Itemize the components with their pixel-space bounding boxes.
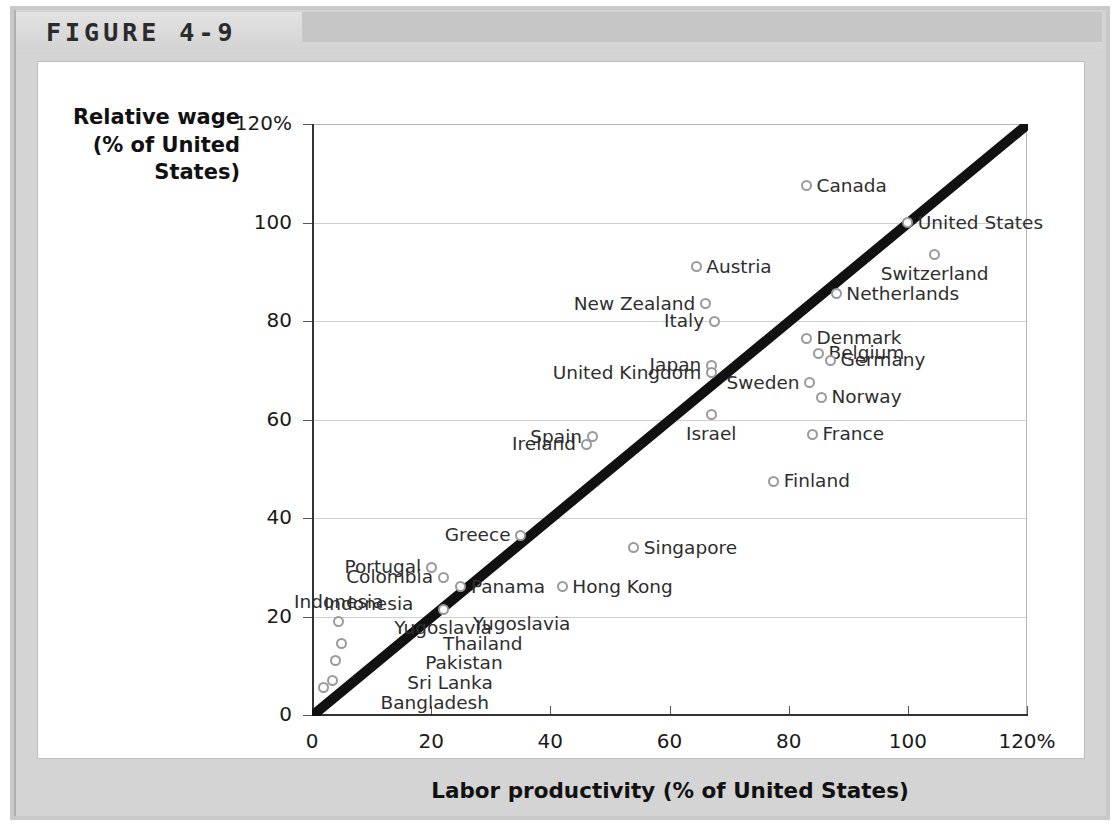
y-tick-label: 120% — [212, 111, 292, 135]
data-point-label: United Kingdom — [553, 363, 702, 382]
data-point[interactable] — [768, 476, 779, 487]
x-tick-label: 80 — [749, 729, 829, 753]
data-point-label: Singapore — [644, 538, 737, 557]
data-point[interactable] — [709, 316, 720, 327]
x-tick-label: 100 — [868, 729, 948, 753]
data-point-label: Germany — [840, 351, 925, 370]
data-point-label: Panama — [471, 578, 545, 597]
data-point-label: France — [823, 425, 885, 444]
data-point-label: Ireland — [512, 435, 576, 454]
data-point-label: Yugoslavia — [473, 615, 571, 634]
data-point[interactable] — [825, 355, 836, 366]
y-tick-label: 20 — [212, 604, 292, 628]
data-point-label: Canada — [817, 176, 887, 195]
data-point-label: Indonesia — [324, 595, 413, 614]
plot-top-border — [312, 124, 1028, 125]
y-tick-label: 60 — [212, 407, 292, 431]
data-point-label: Thailand — [443, 634, 522, 653]
data-point[interactable] — [804, 377, 815, 388]
data-point-label: Greece — [445, 526, 511, 545]
data-point[interactable] — [691, 261, 702, 272]
data-point-label: Sweden — [726, 373, 799, 392]
y-axis-line — [312, 124, 314, 716]
data-point[interactable] — [318, 682, 329, 693]
data-point-label: Sri Lanka — [407, 674, 492, 693]
data-point[interactable] — [902, 217, 913, 228]
data-point[interactable] — [831, 288, 842, 299]
y-tick-mark — [303, 617, 312, 618]
data-point[interactable] — [557, 581, 568, 592]
data-point[interactable] — [330, 655, 341, 666]
data-point-label: Israel — [686, 424, 737, 443]
data-point-label: United States — [918, 213, 1043, 232]
figure-page: FIGURE 4-9 Relative wage (% of United St… — [0, 0, 1118, 830]
y-tick-mark — [303, 124, 312, 125]
data-point[interactable] — [700, 298, 711, 309]
x-tick-label: 40 — [510, 729, 590, 753]
gridline-horizontal — [312, 420, 1027, 421]
data-point[interactable] — [801, 333, 812, 344]
data-point[interactable] — [801, 180, 812, 191]
data-point-label: Norway — [831, 388, 901, 407]
data-point-label: Finland — [784, 472, 850, 491]
y-tick-mark — [303, 715, 312, 716]
y-tick-mark — [303, 420, 312, 421]
data-point[interactable] — [327, 675, 338, 686]
data-point-label: Bangladesh — [381, 693, 489, 712]
data-point-label: Colombia — [346, 568, 433, 587]
data-point[interactable] — [515, 530, 526, 541]
data-point[interactable] — [706, 409, 717, 420]
data-point-label: Pakistan — [425, 654, 502, 673]
scatter-chart: Relative wage (% of United States) Labor… — [0, 0, 1118, 830]
y-tick-label: 100 — [212, 210, 292, 234]
x-tick-label: 120% — [987, 729, 1067, 753]
data-point-label: Austria — [706, 258, 771, 277]
data-point-label: Italy — [664, 312, 704, 331]
data-point[interactable] — [455, 581, 466, 592]
data-point-label: Hong Kong — [572, 578, 673, 597]
data-point[interactable] — [628, 542, 639, 553]
x-tick-label: 0 — [272, 729, 352, 753]
y-tick-mark — [303, 518, 312, 519]
x-tick-label: 20 — [391, 729, 471, 753]
data-point-label: Switzerland — [881, 264, 989, 283]
y-axis-title-line-2: (% of United — [48, 132, 240, 160]
data-point[interactable] — [807, 429, 818, 440]
data-point[interactable] — [438, 604, 449, 615]
x-axis-title: Labor productivity (% of United States) — [312, 778, 1028, 803]
x-axis-line — [312, 714, 1028, 716]
data-point[interactable] — [438, 572, 449, 583]
data-point[interactable] — [333, 616, 344, 627]
y-tick-label: 40 — [212, 505, 292, 529]
data-point[interactable] — [816, 392, 827, 403]
data-point[interactable] — [336, 638, 347, 649]
y-tick-label: 0 — [212, 702, 292, 726]
data-point[interactable] — [581, 439, 592, 450]
data-point-label: Netherlands — [846, 285, 959, 304]
data-point[interactable] — [929, 249, 940, 260]
y-tick-mark — [303, 223, 312, 224]
data-point[interactable] — [706, 367, 717, 378]
gridline-horizontal — [312, 518, 1027, 519]
x-tick-label: 60 — [630, 729, 710, 753]
y-axis-title-line-3: States) — [48, 159, 240, 187]
y-tick-label: 80 — [212, 308, 292, 332]
y-tick-mark — [303, 321, 312, 322]
data-point[interactable] — [813, 348, 824, 359]
